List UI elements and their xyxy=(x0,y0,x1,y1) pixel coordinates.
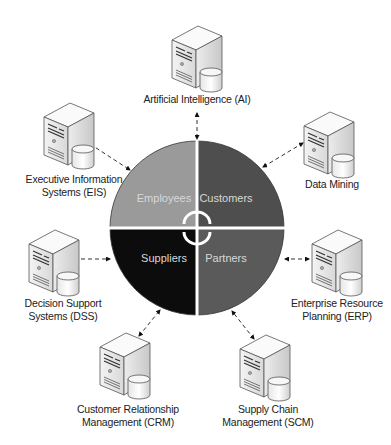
server-database-icon-ai[interactable] xyxy=(172,26,222,92)
label-dm: Data Mining xyxy=(262,178,391,191)
label-erp-line1: Enterprise Resource xyxy=(267,297,391,310)
label-scm-line2: Management (SCM) xyxy=(198,416,338,429)
label-scm: Supply Chain Management (SCM) xyxy=(198,403,338,429)
server-database-icon-erp[interactable] xyxy=(312,230,362,296)
label-eis-line2: Systems (EIS) xyxy=(4,186,144,199)
label-eis: Executive Information Systems (EIS) xyxy=(4,173,144,199)
connector-eis xyxy=(90,144,130,170)
connector-scm xyxy=(232,311,254,339)
center-circle: Employees Customers Suppliers Partners xyxy=(109,140,285,316)
server-database-icon-scm[interactable] xyxy=(240,335,290,401)
label-ai-text: Artificial Intelligence (AI) xyxy=(143,93,250,105)
label-dss-line1: Decision Support xyxy=(0,297,133,310)
quadrant-label-partners: Partners xyxy=(205,252,247,264)
server-database-icon-dm[interactable] xyxy=(304,112,354,178)
quadrant-label-customers: Customers xyxy=(199,192,253,204)
server-database-icon-eis[interactable] xyxy=(44,103,94,169)
label-crm: Customer Relationship Management (CRM) xyxy=(58,403,198,429)
label-erp: Enterprise Resource Planning (ERP) xyxy=(267,297,391,323)
quadrant-label-suppliers: Suppliers xyxy=(141,252,187,264)
connector-dm xyxy=(263,143,303,167)
quadrant-label-employees: Employees xyxy=(137,192,192,204)
label-dss-line2: Systems (DSS) xyxy=(0,310,133,323)
label-erp-line2: Planning (ERP) xyxy=(267,310,391,323)
label-eis-line1: Executive Information xyxy=(4,173,144,186)
connector-crm xyxy=(139,310,160,336)
server-database-icon-crm[interactable] xyxy=(100,333,150,399)
server-database-icon-dss[interactable] xyxy=(29,230,79,296)
label-ai: Artificial Intelligence (AI) xyxy=(127,93,267,106)
diagram-canvas: Employees Customers Suppliers Partners xyxy=(0,0,391,445)
label-crm-line2: Management (CRM) xyxy=(58,416,198,429)
label-dss: Decision Support Systems (DSS) xyxy=(0,297,133,323)
label-scm-line1: Supply Chain xyxy=(198,403,338,416)
label-dm-text: Data Mining xyxy=(305,178,359,190)
label-crm-line1: Customer Relationship xyxy=(58,403,198,416)
